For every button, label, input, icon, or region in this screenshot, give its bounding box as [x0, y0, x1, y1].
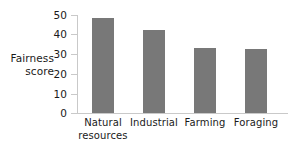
y-tick-mark-10 [71, 94, 77, 95]
x-label-foraging-line-1: Foraging [220, 117, 292, 130]
bar-farming [194, 48, 216, 113]
y-tick-mark-30 [71, 54, 77, 55]
y-tick-mark-50 [71, 15, 77, 16]
y-tick-label-20: 20 [40, 69, 67, 80]
y-tick-mark-0 [71, 113, 77, 114]
y-axis-line [77, 15, 78, 114]
y-tick-mark-40 [71, 34, 77, 35]
x-label-foraging: Foraging [220, 117, 292, 130]
y-tick-mark-20 [71, 74, 77, 75]
y-tick-label-10: 10 [40, 89, 67, 100]
y-tick-label-40: 40 [40, 29, 67, 40]
x-axis-line [77, 113, 288, 114]
bar-foraging [245, 49, 267, 113]
x-label-natural-resources-line-2: resources [67, 130, 139, 143]
bar-chart: Fairness score 50 40 30 20 10 0 Natural … [0, 0, 298, 150]
y-tick-label-50: 50 [40, 10, 67, 21]
bar-natural-resources [92, 18, 114, 113]
bar-industrial [143, 30, 165, 113]
y-tick-label-30: 30 [40, 49, 67, 60]
y-tick-label-0: 0 [40, 108, 67, 119]
